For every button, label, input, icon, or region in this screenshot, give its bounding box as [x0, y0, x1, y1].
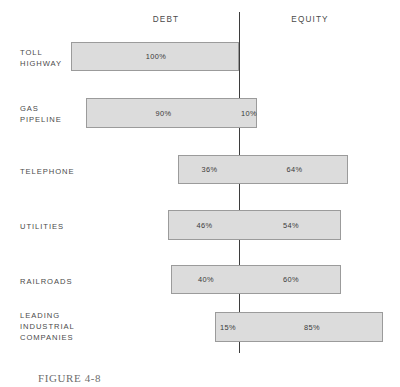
row-label-railroads: RAILROADS: [20, 276, 72, 287]
row-label-telephone: TELEPHONE: [20, 166, 75, 177]
row-label-utilities: UTILITIES: [20, 221, 64, 232]
row-label-gas-pipeline: GAS PIPELINE: [20, 103, 62, 125]
bar-segment-debt-leading-industrial-companies: 15%: [216, 313, 240, 341]
bar-segment-debt-toll-highway: 100%: [72, 43, 240, 70]
bar-value-equity-leading-industrial-companies: 85%: [304, 323, 320, 332]
bar-segment-equity-utilities: 54%: [240, 211, 342, 239]
bar-value-debt-railroads: 40%: [198, 275, 214, 284]
bar-value-equity-utilities: 54%: [283, 221, 299, 230]
bar-railroads: 40% 60%: [171, 265, 341, 294]
bar-segment-debt-telephone: 36%: [179, 156, 240, 183]
bar-segment-debt-utilities: 46%: [169, 211, 240, 239]
column-header-debt: DEBT: [153, 15, 179, 24]
bar-segment-equity-gas-pipeline: 10%: [240, 99, 258, 127]
bar-segment-equity-railroads: 60%: [240, 266, 342, 293]
bar-segment-debt-gas-pipeline: 90%: [87, 99, 240, 127]
bar-value-equity-railroads: 60%: [283, 275, 299, 284]
bar-value-debt-telephone: 36%: [202, 165, 218, 174]
bar-value-equity-telephone: 64%: [287, 165, 303, 174]
debt-equity-chart: DEBT EQUITY TOLL HIGHWAY 100% GAS PIPELI…: [0, 0, 400, 387]
bar-toll-highway: 100%: [71, 42, 239, 71]
bar-value-debt-leading-industrial-companies: 15%: [220, 323, 236, 332]
bar-segment-equity-telephone: 64%: [240, 156, 349, 183]
bar-telephone: 36% 64%: [178, 155, 348, 184]
bar-utilities: 46% 54%: [168, 210, 341, 240]
bar-value-debt-gas-pipeline: 90%: [156, 109, 172, 118]
bar-value-debt-toll-highway: 100%: [146, 52, 166, 61]
bar-segment-debt-railroads: 40%: [172, 266, 240, 293]
figure-caption: FIGURE 4-8: [38, 372, 101, 384]
bar-leading-industrial-companies: 15% 85%: [215, 312, 383, 342]
bar-segment-equity-leading-industrial-companies: 85%: [240, 313, 384, 341]
row-label-toll-highway: TOLL HIGHWAY: [20, 47, 62, 69]
row-label-leading-industrial-companies: LEADING INDUSTRIAL COMPANIES: [20, 310, 75, 344]
bar-value-debt-utilities: 46%: [197, 221, 213, 230]
bar-value-equity-gas-pipeline: 10%: [241, 109, 257, 118]
bar-gas-pipeline: 90% 10%: [86, 98, 257, 128]
column-header-equity: EQUITY: [291, 15, 328, 24]
